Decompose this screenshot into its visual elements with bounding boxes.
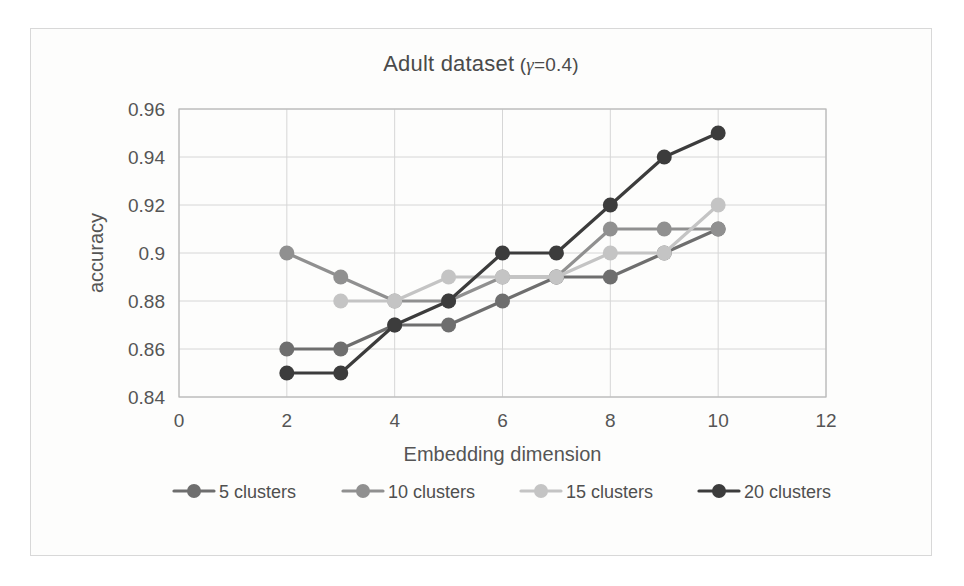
- data-point-marker: [495, 294, 510, 309]
- chart-figure: Adult dataset (γ=0.4) 0.840.860.880.90.9…: [30, 28, 932, 556]
- data-point-marker: [603, 198, 618, 213]
- legend-marker: [187, 484, 201, 498]
- data-point-marker: [333, 342, 348, 357]
- line-chart-svg: 0.840.860.880.90.920.940.96 024681012 Em…: [31, 29, 933, 557]
- chart-legend: 5 clusters10 clusters15 clusters20 clust…: [174, 482, 831, 502]
- data-point-marker: [441, 270, 456, 285]
- x-axis-tick-label: 10: [708, 410, 729, 431]
- data-point-marker: [711, 198, 726, 213]
- y-axis-tick-label: 0.84: [128, 387, 165, 408]
- data-point-marker: [549, 270, 564, 285]
- data-point-marker: [711, 126, 726, 141]
- legend-marker: [534, 484, 548, 498]
- data-point-marker: [495, 270, 510, 285]
- legend-item-label: 10 clusters: [388, 482, 475, 502]
- y-axis-tick-label: 0.88: [128, 291, 165, 312]
- data-point-marker: [711, 222, 726, 237]
- x-axis-title: Embedding dimension: [404, 443, 602, 465]
- y-axis-tick-labels: 0.840.860.880.90.920.940.96: [128, 99, 165, 408]
- x-axis-tick-label: 2: [282, 410, 293, 431]
- legend-item-label: 20 clusters: [744, 482, 831, 502]
- legend-item-label: 15 clusters: [566, 482, 653, 502]
- data-point-marker: [603, 270, 618, 285]
- x-axis-tick-label: 0: [174, 410, 185, 431]
- data-point-marker: [387, 318, 402, 333]
- data-point-marker: [279, 366, 294, 381]
- data-point-marker: [441, 294, 456, 309]
- y-axis-tick-label: 0.94: [128, 147, 165, 168]
- y-axis-tick-label: 0.92: [128, 195, 165, 216]
- legend-marker: [712, 484, 726, 498]
- y-axis-tick-label: 0.86: [128, 339, 165, 360]
- data-point-marker: [333, 366, 348, 381]
- data-point-marker: [279, 342, 294, 357]
- data-point-marker: [603, 222, 618, 237]
- data-point-marker: [657, 150, 672, 165]
- data-point-marker: [387, 294, 402, 309]
- legend-item-label: 5 clusters: [219, 482, 296, 502]
- data-point-marker: [333, 270, 348, 285]
- data-point-marker: [657, 246, 672, 261]
- data-point-marker: [657, 222, 672, 237]
- x-axis-tick-label: 8: [605, 410, 616, 431]
- x-axis-tick-label: 6: [497, 410, 508, 431]
- y-axis-tick-label: 0.9: [139, 243, 165, 264]
- data-point-marker: [441, 318, 456, 333]
- data-point-marker: [495, 246, 510, 261]
- y-axis-title: accuracy: [85, 213, 107, 293]
- legend-marker: [356, 484, 370, 498]
- x-axis-tick-label: 12: [815, 410, 836, 431]
- data-point-marker: [333, 294, 348, 309]
- data-point-marker: [603, 246, 618, 261]
- x-axis-tick-label: 4: [389, 410, 400, 431]
- data-point-marker: [549, 246, 564, 261]
- plot-area-wrapper: 0.840.860.880.90.920.940.96 024681012 Em…: [31, 29, 933, 557]
- x-axis-tick-labels: 024681012: [174, 410, 837, 431]
- data-point-marker: [279, 246, 294, 261]
- y-axis-tick-label: 0.96: [128, 99, 165, 120]
